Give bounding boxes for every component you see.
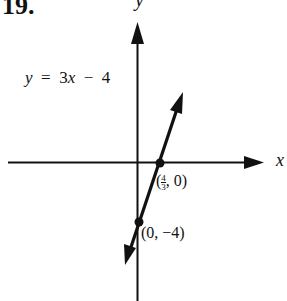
equation-coef: 3 [59,68,68,87]
y-intercept-label: (0, −4) [141,224,185,242]
x-intercept-rest: , 0) [166,172,187,189]
equation-lhs: y [25,68,33,87]
x-axis-arrow-icon [244,156,264,169]
y-axis-arrow-icon [131,22,144,44]
equation-const: 4 [102,68,111,87]
coordinate-plane [0,0,287,301]
equation-equals: = [41,68,51,87]
x-axis-label: x [276,150,284,171]
equation-var: x [68,68,76,87]
equation-label: y = 3x − 4 [25,68,110,88]
x-intercept-point [156,159,165,168]
line-arrow-up-icon [170,92,183,114]
equation-op: − [84,68,94,87]
y-axis-label: y [135,0,144,11]
line-arrow-down-icon [124,244,136,265]
problem-number: 19. [2,0,35,21]
x-intercept-label: (43, 0) [156,172,187,191]
